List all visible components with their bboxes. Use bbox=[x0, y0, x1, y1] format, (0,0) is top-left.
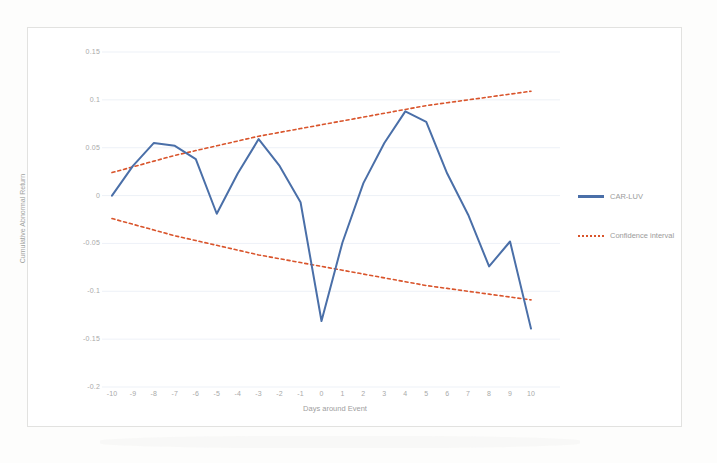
gridlines bbox=[102, 52, 560, 387]
x-tick-label: -4 bbox=[228, 390, 248, 397]
y-tick-label: 0.05 bbox=[60, 144, 100, 151]
x-tick-label: 7 bbox=[458, 390, 478, 397]
x-tick-label: -5 bbox=[207, 390, 227, 397]
x-tick-label: -6 bbox=[186, 390, 206, 397]
y-tick-label: 0 bbox=[60, 192, 100, 199]
x-tick-label: 4 bbox=[395, 390, 415, 397]
y-tick-label: -0.2 bbox=[60, 383, 100, 390]
y-tick-label: -0.05 bbox=[60, 239, 100, 246]
x-tick-label: -1 bbox=[291, 390, 311, 397]
legend-label-car-luv: CAR-LUV bbox=[610, 192, 643, 201]
x-tick-label: 2 bbox=[353, 390, 373, 397]
x-tick-label: -10 bbox=[102, 390, 122, 397]
x-tick-label: -9 bbox=[123, 390, 143, 397]
solid-line-swatch-icon bbox=[578, 195, 604, 198]
x-tick-label: 10 bbox=[521, 390, 541, 397]
y-tick-label: 0.1 bbox=[60, 96, 100, 103]
car-luv-series-line bbox=[112, 111, 531, 328]
dotted-line-swatch-icon bbox=[578, 235, 604, 237]
confidence-interval-lower-line bbox=[112, 219, 531, 300]
y-tick-label: -0.1 bbox=[60, 287, 100, 294]
x-tick-label: -8 bbox=[144, 390, 164, 397]
x-tick-label: 3 bbox=[374, 390, 394, 397]
x-tick-label: 9 bbox=[500, 390, 520, 397]
y-tick-label: -0.15 bbox=[60, 335, 100, 342]
x-tick-label: 1 bbox=[332, 390, 352, 397]
confidence-interval-upper-line bbox=[112, 91, 531, 172]
x-tick-label: -7 bbox=[165, 390, 185, 397]
legend-item-car-luv[interactable]: CAR-LUV bbox=[578, 192, 643, 201]
y-axis-title: Cumulative Abnormal Return bbox=[19, 159, 26, 279]
x-tick-label: 5 bbox=[416, 390, 436, 397]
y-tick-label: 0.15 bbox=[60, 48, 100, 55]
x-tick-label: -3 bbox=[249, 390, 269, 397]
x-tick-label: 8 bbox=[479, 390, 499, 397]
legend-label-confidence-interval: Confidence interval bbox=[610, 231, 674, 240]
x-axis-title: Days around Event bbox=[205, 404, 465, 413]
x-tick-label: -2 bbox=[270, 390, 290, 397]
legend-item-confidence-interval[interactable]: Confidence interval bbox=[578, 231, 674, 240]
x-tick-label: 0 bbox=[312, 390, 332, 397]
x-tick-label: 6 bbox=[437, 390, 457, 397]
